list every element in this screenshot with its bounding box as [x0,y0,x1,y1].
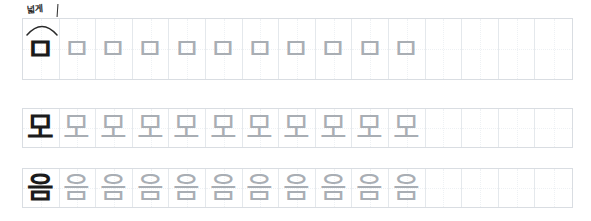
empty-cell [461,108,498,148]
empty-cell [425,18,462,82]
traced-character: 모 [95,108,132,148]
traced-character: 음 [132,168,169,208]
annotation-stroke [57,4,59,17]
traced-character: ㅁ [132,18,169,82]
traced-character: 모 [388,108,425,148]
empty-cell [534,18,571,82]
practice-row-eum: 음음음음음음음음음음음 [22,168,573,208]
practice-row-mo: 모모모모모모모모모모모 [22,108,573,148]
traced-character: 모 [242,108,279,148]
traced-character: 모 [351,108,388,148]
empty-cell [534,168,571,208]
traced-character: ㅁ [278,18,315,82]
traced-character: 음 [168,168,205,208]
traced-character: 음 [351,168,388,208]
practice-row-mieum: ㅁㅁㅁㅁㅁㅁㅁㅁㅁㅁㅁ [22,18,573,80]
traced-character: ㅁ [95,18,132,82]
empty-cell [498,108,535,148]
empty-cell [534,108,571,148]
traced-character: 음 [59,168,96,208]
model-character: 모 [22,108,59,148]
worksheet-canvas: ㅁㅁㅁㅁㅁㅁㅁㅁㅁㅁㅁ 모모모모모모모모모모모 음음음음음음음음음음음 넓게 [0,0,591,221]
model-character: ㅁ [22,18,59,82]
traced-character: 음 [205,168,242,208]
empty-cell [461,18,498,82]
traced-character: 음 [388,168,425,208]
traced-character: 모 [168,108,205,148]
model-character: 음 [22,168,59,208]
traced-character: ㅁ [59,18,96,82]
traced-character: ㅁ [388,18,425,82]
traced-character: 모 [278,108,315,148]
empty-cell [498,168,535,208]
width-annotation-label: 넓게 [27,1,43,15]
traced-character: ㅁ [351,18,388,82]
traced-character: ㅁ [168,18,205,82]
traced-character: 음 [242,168,279,208]
glyph-layer-row-2: 모모모모모모모모모모모 [22,108,573,148]
empty-cell [425,168,462,208]
traced-character: 음 [315,168,352,208]
empty-cell [425,108,462,148]
traced-character: ㅁ [315,18,352,82]
empty-cell [498,18,535,82]
traced-character: 모 [315,108,352,148]
traced-character: 모 [59,108,96,148]
traced-character: 모 [132,108,169,148]
traced-character: 음 [278,168,315,208]
traced-character: 모 [205,108,242,148]
traced-character: 음 [95,168,132,208]
empty-cell [461,168,498,208]
traced-character: ㅁ [205,18,242,82]
glyph-layer-row-1: ㅁㅁㅁㅁㅁㅁㅁㅁㅁㅁㅁ [22,18,573,80]
traced-character: ㅁ [242,18,279,82]
glyph-layer-row-3: 음음음음음음음음음음음 [22,168,573,208]
